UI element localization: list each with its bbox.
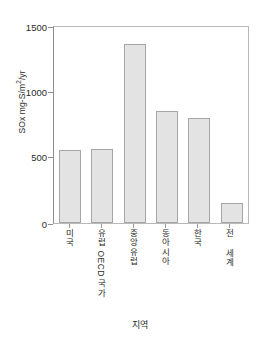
- bar-한국: [188, 118, 210, 223]
- bar-전-세계: [221, 203, 243, 223]
- x-tick-mark-2: [101, 224, 102, 228]
- y-tick-label-1000: 1000: [11, 87, 47, 98]
- x-category-label-3: 중앙유럽: [128, 229, 137, 267]
- y-axis-title: SOx mg-S/m2/yr: [15, 37, 27, 167]
- bar-chart: SOx mg-S/m2/yr 1500 1000 500 0 미국 유럽 OEC…: [0, 0, 279, 347]
- x-tick-mark-5: [197, 224, 198, 228]
- x-category-label-1: 미국: [64, 229, 73, 248]
- y-axis-title-suffix: /yr: [17, 70, 27, 80]
- x-category-label-5: 한국: [192, 229, 201, 248]
- x-category-label-2: 유럽 OECD 국가: [96, 229, 105, 298]
- bars-container: [54, 27, 248, 223]
- y-tick-mark-0: [48, 224, 53, 225]
- y-tick-label-0: 0: [11, 219, 47, 230]
- x-tick-mark-4: [165, 224, 166, 228]
- bar-중앙유럽: [124, 44, 146, 223]
- x-tick-mark-6: [229, 224, 230, 228]
- x-axis-title: 지역: [0, 318, 279, 331]
- x-tick-mark-3: [133, 224, 134, 228]
- x-category-label-4: 동아시아: [160, 229, 169, 267]
- bar-동아시아: [156, 111, 178, 223]
- x-tick-mark-1: [69, 224, 70, 228]
- bar-미국: [59, 150, 81, 223]
- bar-유럽-oecd-국가: [91, 149, 113, 223]
- y-axis-title-superscript: 2: [15, 80, 22, 84]
- y-tick-label-500: 500: [11, 152, 47, 163]
- x-category-label-6: 전 세계: [224, 229, 233, 268]
- y-tick-label-1500: 1500: [11, 22, 47, 33]
